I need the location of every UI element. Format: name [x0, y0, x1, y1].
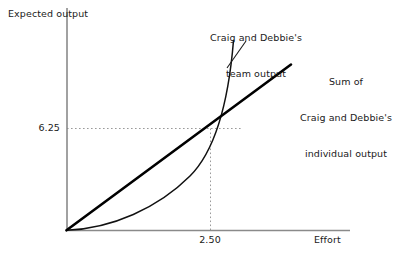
chart-figure: Expected output 6.25 2.50 Effort Craig a…	[0, 0, 406, 259]
y-axis-title-text: Expected output	[8, 8, 88, 19]
x-axis-tick-label: 2.50	[186, 234, 234, 246]
team-output-annotation-line-1: Craig and Debbie's	[196, 32, 316, 44]
sum-individual-annotation: Sum of Craig and Debbie's individual out…	[290, 52, 402, 184]
sum-individual-annotation-line-3: individual output	[290, 148, 402, 160]
sum-individual-annotation-line-1: Sum of	[290, 76, 402, 88]
y-axis-tick-label: 6.25	[24, 122, 60, 134]
y-tick-value: 6.25	[38, 122, 60, 133]
x-axis-title-text: Effort	[314, 234, 341, 245]
x-axis-title: Effort	[314, 234, 374, 246]
sum-individual-annotation-line-2: Craig and Debbie's	[290, 112, 402, 124]
y-axis-title: Expected output	[8, 8, 64, 20]
x-tick-value: 2.50	[199, 234, 221, 245]
